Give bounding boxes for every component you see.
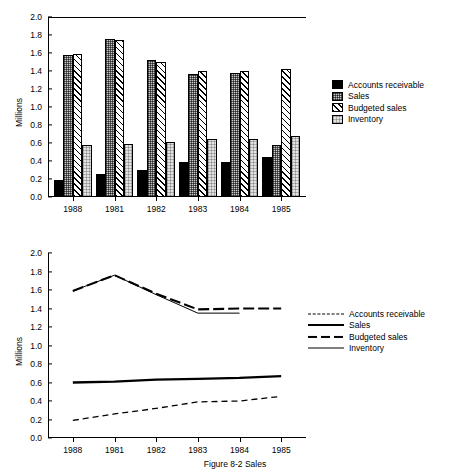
bar — [249, 139, 258, 197]
bar — [54, 180, 63, 197]
legend-swatch-icon — [332, 103, 343, 112]
line-series — [73, 396, 281, 420]
x-axis-tick-label: 1988 — [63, 204, 82, 214]
figure-caption: Figure 8-2 Sales — [0, 459, 470, 469]
legend-item-label: Sales — [349, 321, 370, 330]
bar-chart-legend: Accounts receivableSalesBudgeted salesIn… — [332, 79, 424, 125]
y-axis-tick-mark — [48, 106, 52, 107]
line-series — [73, 376, 281, 382]
line-series — [73, 275, 240, 313]
y-axis-tick-label: 0.4 — [18, 156, 42, 166]
legend-item: Budgeted sales — [308, 331, 425, 343]
legend-item-label: Budgeted sales — [349, 333, 408, 342]
bar — [291, 136, 300, 197]
y-axis-tick-label: 1.4 — [18, 66, 42, 76]
y-axis-tick-label: 1.2 — [18, 84, 42, 94]
y-axis-tick-mark — [48, 142, 52, 143]
legend-item-label: Accounts receivable — [348, 81, 424, 90]
y-axis-tick-label: 0.6 — [18, 138, 42, 148]
legend-item-label: Accounts receivable — [349, 310, 425, 319]
x-axis-tick-mark — [115, 197, 116, 201]
x-axis-tick-label: 1985 — [272, 204, 291, 214]
bar — [156, 62, 165, 197]
x-axis-tick-label: 1984 — [230, 204, 249, 214]
legend-item: Inventory — [332, 114, 424, 126]
bar — [262, 157, 271, 198]
bar — [179, 162, 188, 197]
legend-swatch-icon — [332, 92, 343, 101]
legend-line-icon — [308, 332, 344, 341]
legend-swatch-icon — [332, 80, 343, 89]
x-axis-tick-label: 1983 — [188, 204, 207, 214]
x-axis-tick-mark — [198, 197, 199, 201]
y-axis-tick-mark — [48, 178, 52, 179]
y-axis-tick-label: 0.0 — [18, 192, 42, 202]
legend-item: Accounts receivable — [332, 79, 424, 91]
legend-line-icon — [308, 309, 344, 318]
y-axis-tick-label: 0.8 — [18, 120, 42, 130]
bar — [115, 40, 124, 197]
legend-item: Accounts receivable — [308, 308, 425, 320]
bar — [230, 73, 239, 197]
line-chart-legend: Accounts receivableSalesBudgeted salesIn… — [308, 308, 425, 354]
y-axis-tick-mark — [48, 88, 52, 89]
y-axis-tick-label: 1.8 — [18, 30, 42, 40]
x-axis-tick-mark — [73, 197, 74, 201]
legend-item-label: Inventory — [348, 115, 383, 124]
bar — [147, 60, 156, 197]
y-axis-tick-label: 2.0 — [18, 12, 42, 22]
bar — [188, 74, 197, 197]
figure-container: Millions 0.00.20.40.60.81.01.21.41.61.82… — [0, 0, 470, 475]
bar — [124, 144, 133, 197]
x-axis-tick-mark — [156, 197, 157, 201]
y-axis-tick-label: 1.0 — [18, 102, 42, 112]
x-axis-tick-mark — [281, 197, 282, 201]
legend-item: Sales — [332, 91, 424, 103]
y-axis-tick-mark — [48, 16, 52, 17]
legend-item: Sales — [308, 320, 425, 332]
legend-item-label: Sales — [348, 92, 369, 101]
legend-item: Budgeted sales — [332, 102, 424, 114]
bar — [166, 142, 175, 197]
y-axis-tick-mark — [48, 160, 52, 161]
x-axis-tick-label: 1981 — [105, 204, 124, 214]
y-axis-tick-mark — [48, 52, 52, 53]
bar — [198, 71, 207, 197]
y-axis-tick-label: 1.6 — [18, 48, 42, 58]
bar-chart-panel: Millions 0.00.20.40.60.81.01.21.41.61.82… — [0, 0, 470, 225]
legend-item: Inventory — [308, 343, 425, 355]
y-axis-tick-mark — [48, 34, 52, 35]
bar — [96, 174, 105, 197]
y-axis-tick-mark — [48, 124, 52, 125]
line-chart-series — [0, 233, 470, 475]
line-chart-panel: Millions 0.00.20.40.60.81.01.21.41.61.82… — [0, 233, 470, 475]
bar — [240, 71, 249, 197]
bar — [272, 145, 281, 197]
x-axis-tick-label: 1982 — [147, 204, 166, 214]
bar — [82, 145, 91, 197]
bar — [207, 139, 216, 197]
legend-swatch-icon — [332, 115, 343, 124]
legend-line-icon — [308, 344, 344, 353]
bar — [137, 170, 146, 197]
x-axis-tick-mark — [240, 197, 241, 201]
y-axis-tick-label: 0.2 — [18, 174, 42, 184]
bar — [73, 54, 82, 197]
y-axis-tick-mark — [48, 70, 52, 71]
y-axis-tick-mark — [48, 196, 52, 197]
bar — [105, 39, 114, 197]
legend-line-icon — [308, 321, 344, 330]
bar — [63, 55, 72, 197]
bar — [221, 162, 230, 197]
bar-chart-top-rule — [48, 17, 306, 18]
legend-item-label: Inventory — [349, 344, 384, 353]
bar — [281, 69, 290, 197]
legend-item-label: Budgeted sales — [348, 104, 407, 113]
